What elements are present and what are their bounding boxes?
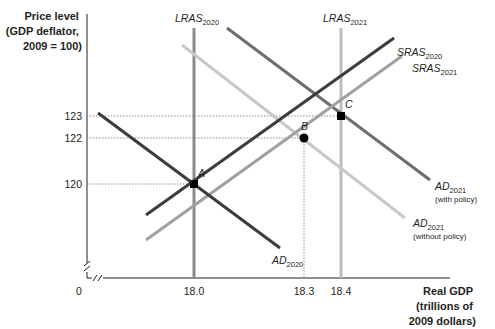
ad-2020-line (98, 113, 280, 248)
point-a-label: A (197, 167, 205, 179)
point-c-label: C (345, 98, 353, 110)
x-ticks: 0 18.0 18.3 18.4 (76, 285, 351, 297)
ad-as-chart: Price level (GDP deflator, 2009 = 100) 1… (0, 0, 495, 329)
ad-2021-without-policy-line (182, 45, 405, 218)
ad-2020-label: AD2020 (271, 254, 303, 269)
point-a-marker (190, 180, 198, 188)
ad-2021-without-policy-note: (without policy) (413, 232, 467, 241)
point-b-label: B (301, 120, 308, 132)
y-ticks: 123 122 120 (64, 110, 82, 190)
lras-2020-label: LRAS2020 (175, 12, 219, 27)
sras-2021-line (146, 56, 402, 240)
y-axis-label: Price level (GDP deflator, 2009 = 100) (6, 10, 83, 52)
x-axis-label: Real GDP (trillions of 2009 dollars) (409, 285, 477, 327)
axes (84, 14, 450, 281)
point-b-marker (300, 134, 309, 143)
ad-2021-with-policy-label: AD2021 (434, 180, 466, 195)
ad-2021-without-policy-label: AD2021 (412, 217, 444, 232)
svg-text:18.3: 18.3 (294, 285, 315, 297)
svg-text:18.0: 18.0 (184, 285, 205, 297)
svg-text:18.4: 18.4 (331, 285, 352, 297)
svg-text:120: 120 (64, 178, 82, 190)
svg-text:122: 122 (64, 132, 82, 144)
svg-text:0: 0 (76, 285, 82, 297)
point-c-marker (337, 112, 345, 120)
sras-2021-label: SRAS2021 (412, 62, 457, 77)
sras-2020-label: SRAS2020 (397, 46, 442, 61)
lras-2021-label: LRAS2021 (323, 12, 367, 27)
ad-2021-with-policy-note: (with policy) (435, 195, 478, 204)
svg-text:123: 123 (64, 110, 82, 122)
